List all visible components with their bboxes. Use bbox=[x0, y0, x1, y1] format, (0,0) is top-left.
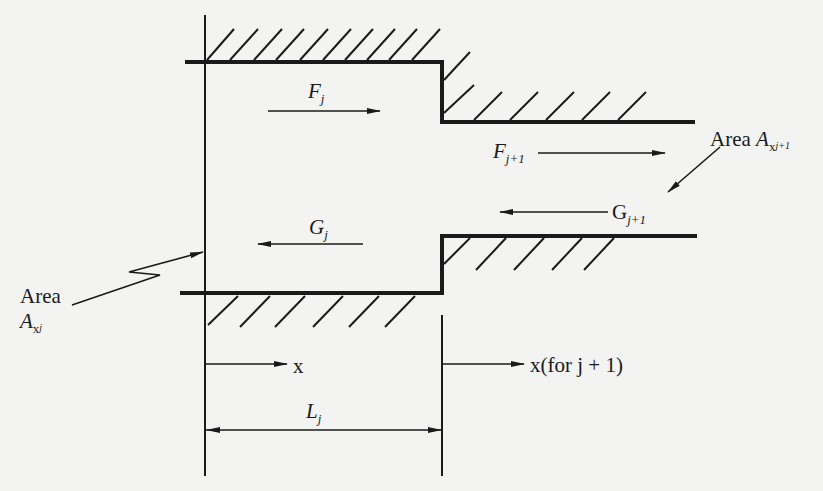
x-next-axis-label: x(for j + 1) bbox=[530, 355, 623, 376]
L-j-label: Lj bbox=[306, 401, 321, 425]
G-j-label: Gj bbox=[309, 217, 328, 241]
figure-stage: Fj Fj+1 Gj Gj+1 Area Axj+1 Area Axj x x(… bbox=[0, 0, 823, 491]
duct-diagram bbox=[0, 0, 823, 491]
bottom-wall-hatching bbox=[208, 296, 415, 327]
lower-right-wall-hatching bbox=[444, 238, 614, 270]
area-j-leader bbox=[72, 252, 203, 305]
area-j-label-word: Area bbox=[20, 286, 61, 307]
x-axis-label: x bbox=[293, 356, 304, 377]
G-j1-label: Gj+1 bbox=[612, 202, 646, 226]
area-j1-leader bbox=[668, 147, 720, 192]
area-j-label-symbol: Axj bbox=[20, 311, 42, 335]
upper-right-wall-hatching bbox=[474, 92, 652, 120]
area-j1-label: Area Axj+1 bbox=[710, 129, 790, 153]
F-j-label: Fj bbox=[308, 81, 324, 105]
duct-j-walls bbox=[180, 62, 697, 293]
F-j1-label: Fj+1 bbox=[493, 141, 525, 165]
top-wall-hatching bbox=[207, 29, 474, 113]
